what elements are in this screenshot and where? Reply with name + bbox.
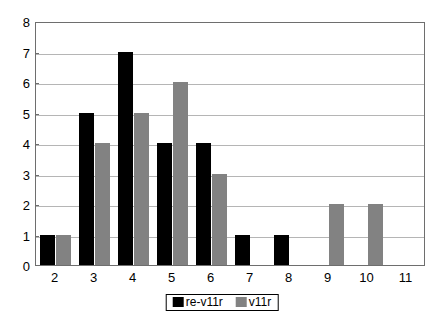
y-tick-label: 2	[0, 199, 30, 212]
x-tick-label: 10	[359, 270, 373, 285]
bars-layer	[36, 23, 424, 265]
legend-entry: re-v11r	[173, 296, 223, 308]
x-axis: 234567891011	[35, 270, 425, 288]
bar	[173, 82, 188, 265]
legend-swatch-icon	[236, 297, 247, 307]
y-axis: 012345678	[0, 22, 30, 266]
legend-entry: v11r	[236, 296, 271, 308]
y-tick-label: 5	[0, 107, 30, 120]
bar	[79, 113, 94, 266]
bar	[235, 235, 250, 266]
legend-swatch-icon	[173, 297, 184, 307]
x-tick-label: 4	[129, 270, 136, 285]
bar	[329, 204, 344, 265]
y-tick-label: 7	[0, 46, 30, 59]
legend-label: re-v11r	[186, 296, 223, 308]
bar	[95, 143, 110, 265]
x-tick-label: 3	[90, 270, 97, 285]
x-tick-label: 2	[51, 270, 58, 285]
x-tick-label: 5	[168, 270, 175, 285]
y-tick-label: 0	[0, 260, 30, 273]
bar	[274, 235, 289, 266]
y-tick-mark	[35, 205, 39, 206]
y-tick-mark	[35, 236, 39, 237]
y-tick-mark	[35, 114, 39, 115]
legend-label: v11r	[249, 296, 271, 308]
y-tick-label: 8	[0, 16, 30, 29]
y-tick-label: 6	[0, 77, 30, 90]
x-tick-label: 6	[207, 270, 214, 285]
x-tick-label: 11	[399, 270, 413, 285]
y-tick-mark	[35, 53, 39, 54]
x-tick-label: 9	[324, 270, 331, 285]
bar	[134, 113, 149, 266]
bar	[212, 174, 227, 266]
bar	[56, 235, 71, 266]
bar	[118, 52, 133, 266]
y-tick-mark	[35, 175, 39, 176]
chart-legend: re-v11rv11r	[166, 294, 279, 311]
bar	[157, 143, 172, 265]
x-tick-label: 7	[246, 270, 253, 285]
bar	[40, 235, 55, 266]
y-tick-label: 3	[0, 168, 30, 181]
bar	[196, 143, 211, 265]
y-tick-mark	[35, 83, 39, 84]
bar-chart: 012345678 234567891011 re-v11rv11r	[0, 0, 444, 325]
y-tick-label: 4	[0, 138, 30, 151]
y-tick-mark	[35, 144, 39, 145]
plot-area	[35, 22, 425, 266]
y-tick-label: 1	[0, 229, 30, 242]
bar	[368, 204, 383, 265]
x-tick-label: 8	[285, 270, 292, 285]
